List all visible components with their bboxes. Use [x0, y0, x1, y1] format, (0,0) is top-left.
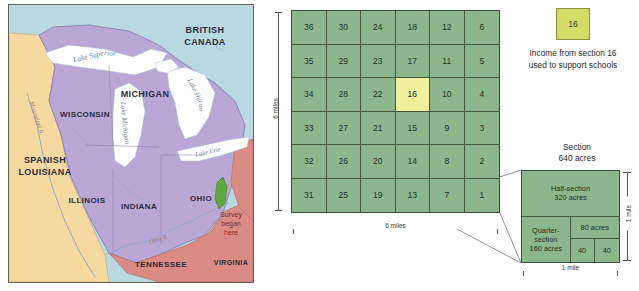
section-cell[interactable]: 18: [396, 11, 431, 45]
section-detail-diagram: Section 640 acres Half-section 320 acres…: [521, 142, 633, 282]
township-grid: 36 30 24 18 12 6 35 29 23 17 11 5 34 28 …: [291, 10, 500, 213]
section-title-line1: Section: [521, 142, 633, 153]
leader-line-top: [500, 170, 521, 177]
section-cell[interactable]: 19: [361, 179, 396, 213]
half-section-area[interactable]: Half-section 320 acres: [522, 171, 619, 217]
section-title-line2: 640 acres: [521, 153, 633, 164]
forty-acre-area-left[interactable]: 40: [571, 239, 595, 262]
dim-horizontal-label: 6 miles: [291, 222, 500, 229]
section-cell[interactable]: 14: [396, 145, 431, 179]
label-british-canada-line2: CANADA: [184, 37, 225, 47]
label-virginia: VIRGINIA: [214, 259, 248, 266]
legend-swatch-section-16: 16: [556, 8, 590, 40]
section-cell[interactable]: 28: [327, 78, 362, 112]
section-cell[interactable]: 3: [465, 112, 500, 146]
label-survey-line1: Survey: [220, 211, 242, 219]
label-tennessee: TENNESSEE: [135, 260, 187, 269]
township-diagram: 36 30 24 18 12 6 35 29 23 17 11 5 34 28 …: [291, 10, 500, 213]
section-cell[interactable]: 33: [292, 112, 327, 146]
section-cell[interactable]: 8: [430, 145, 465, 179]
legend-swatch-label: 16: [568, 19, 577, 29]
section-cell[interactable]: 22: [361, 78, 396, 112]
section-cell-16-highlighted[interactable]: 16: [396, 78, 431, 112]
map-illustration: BRITISH CANADA MICHIGAN WISCONSIN SPANIS…: [9, 5, 253, 282]
section-dim-horizontal-label: 1 mile: [521, 264, 620, 271]
section-cell[interactable]: 10: [430, 78, 465, 112]
section-cell[interactable]: 13: [396, 179, 431, 213]
quarter-section-line3: 160 acres: [530, 244, 562, 253]
section-cell[interactable]: 12: [430, 11, 465, 45]
section-cell[interactable]: 30: [327, 11, 362, 45]
dim-vertical-label: 6 miles: [272, 89, 279, 129]
forty-acre-left-label: 40: [578, 246, 586, 255]
section-dim-vertical-tick-bottom: [623, 260, 631, 261]
half-section-line1: Half-section: [551, 184, 590, 193]
section-cell[interactable]: 35: [292, 45, 327, 79]
section-cell[interactable]: 23: [361, 45, 396, 79]
section-cell[interactable]: 36: [292, 11, 327, 45]
section-cell[interactable]: 21: [361, 112, 396, 146]
section-cell[interactable]: 6: [465, 11, 500, 45]
legend-caption: Income from section 16 used to support s…: [512, 48, 634, 71]
section-cell[interactable]: 15: [396, 112, 431, 146]
section-cell[interactable]: 24: [361, 11, 396, 45]
legend: 16 Income from section 16 used to suppor…: [512, 8, 634, 71]
label-michigan: MICHIGAN: [121, 89, 170, 99]
section-cell[interactable]: 29: [327, 45, 362, 79]
section-cell[interactable]: 5: [465, 45, 500, 79]
section-cell[interactable]: 31: [292, 179, 327, 213]
label-survey-line2: began: [221, 220, 241, 228]
section-cell[interactable]: 27: [327, 112, 362, 146]
section-dim-vertical-tick-top: [623, 172, 631, 173]
legend-caption-line1: Income from section 16: [512, 48, 634, 60]
section-cell[interactable]: 32: [292, 145, 327, 179]
section-cell[interactable]: 20: [361, 145, 396, 179]
quarter-section-line1: Quarter-: [532, 226, 560, 235]
label-ohio: OHIO: [190, 194, 212, 203]
dim-vertical-tick-bottom: [275, 210, 282, 211]
section-cell[interactable]: 26: [327, 145, 362, 179]
leader-line-bottom: [500, 213, 521, 263]
dim-vertical-tick-top: [275, 12, 282, 13]
label-indiana: INDIANA: [121, 202, 157, 211]
section-cell[interactable]: 4: [465, 78, 500, 112]
section-cell[interactable]: 1: [465, 179, 500, 213]
quarter-section-line2: section: [534, 235, 557, 244]
section-cell[interactable]: 34: [292, 78, 327, 112]
section-cell[interactable]: 25: [327, 179, 362, 213]
section-detail-title: Section 640 acres: [521, 142, 633, 164]
legend-caption-line2: used to support schools: [512, 60, 634, 72]
label-illinois: ILLINOIS: [69, 196, 106, 205]
historical-map-panel: BRITISH CANADA MICHIGAN WISCONSIN SPANIS…: [8, 4, 254, 283]
leader-line-diagonal: [455, 228, 521, 263]
section-cell[interactable]: 7: [430, 179, 465, 213]
section-box: Half-section 320 acres Quarter- section …: [521, 170, 620, 263]
section-cell[interactable]: 17: [396, 45, 431, 79]
quarter-section-area[interactable]: Quarter- section 160 acres: [522, 217, 571, 263]
label-spanish-louisiana-line2: LOUISIANA: [18, 167, 71, 177]
eighty-acre-area[interactable]: 80 acres: [571, 217, 620, 240]
section-dim-vertical-label: 1 mile: [625, 197, 632, 231]
forty-acre-area-right[interactable]: 40: [595, 239, 619, 262]
section-cell[interactable]: 2: [465, 145, 500, 179]
forty-acre-right-label: 40: [603, 246, 611, 255]
section-cell[interactable]: 9: [430, 112, 465, 146]
label-spanish-louisiana-line1: SPANISH: [24, 155, 66, 165]
label-survey-line3: here: [224, 229, 238, 236]
eighty-acre-label: 80 acres: [581, 223, 609, 232]
label-british-canada-line1: BRITISH: [186, 25, 225, 35]
label-wisconsin: WISCONSIN: [60, 110, 110, 119]
half-section-line2: 320 acres: [554, 193, 586, 202]
section-cell[interactable]: 11: [430, 45, 465, 79]
